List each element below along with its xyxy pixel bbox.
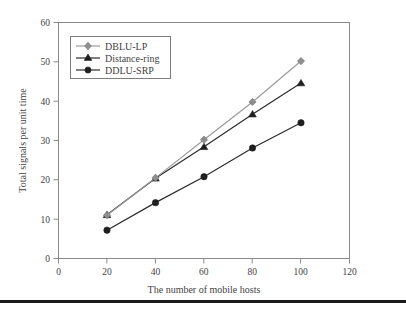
- x-tick-label: 40: [151, 267, 161, 277]
- y-tick-label: 0: [45, 254, 50, 264]
- y-tick-label: 60: [41, 18, 51, 28]
- circle-marker-icon: [249, 145, 255, 151]
- x-axis-ticks: [59, 259, 350, 264]
- series-distance-ring: [103, 79, 305, 217]
- circle-marker-icon: [85, 67, 91, 73]
- y-tick-label: 20: [41, 175, 51, 185]
- y-tick-label: 10: [41, 215, 51, 225]
- x-tick-label: 100: [293, 267, 308, 277]
- y-axis-title: Total signals per unit time: [17, 88, 28, 193]
- x-tick-label: 0: [56, 267, 61, 277]
- figure-container: 0 10 20 30 40 50 60 0 20 40 60 80 100 12…: [0, 0, 406, 311]
- y-tick-label: 40: [41, 97, 51, 107]
- series-dblu-lp: [103, 57, 304, 218]
- legend-label: Distance-ring: [105, 53, 159, 64]
- triangle-marker-icon: [297, 79, 305, 85]
- circle-marker-icon: [152, 199, 158, 205]
- legend: DBLU-LP Distance-ring DDLU-SRP: [71, 37, 171, 79]
- legend-label: DBLU-LP: [105, 41, 148, 52]
- x-axis-title: The number of mobile hosts: [148, 284, 261, 295]
- circle-marker-icon: [298, 120, 304, 126]
- x-axis-tick-labels: 0 20 40 60 80 100 120: [56, 267, 357, 277]
- y-axis-tick-labels: 0 10 20 30 40 50 60: [41, 18, 51, 264]
- circle-marker-icon: [201, 173, 207, 179]
- x-tick-label: 80: [247, 267, 257, 277]
- y-tick-label: 50: [41, 57, 51, 67]
- x-tick-label: 60: [199, 267, 209, 277]
- legend-label: DDLU-SRP: [105, 65, 154, 76]
- x-tick-label: 120: [342, 267, 357, 277]
- line-chart: 0 10 20 30 40 50 60 0 20 40 60 80 100 12…: [0, 0, 406, 311]
- bottom-divider-rule: [0, 300, 406, 303]
- triangle-marker-icon: [249, 111, 257, 117]
- circle-marker-icon: [104, 227, 110, 233]
- x-tick-label: 20: [102, 267, 112, 277]
- y-axis-ticks: [54, 23, 59, 259]
- triangle-marker-icon: [200, 143, 208, 149]
- y-tick-label: 30: [41, 136, 51, 146]
